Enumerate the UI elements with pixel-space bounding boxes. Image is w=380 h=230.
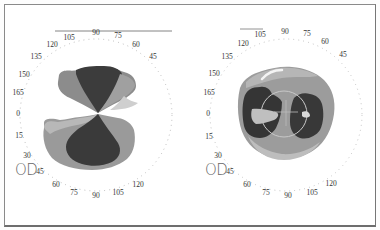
tick-label: 135 xyxy=(30,53,41,61)
tick-label: 105 xyxy=(306,189,317,197)
tick-label: 15 xyxy=(205,133,213,141)
tick-label: 45 xyxy=(36,168,44,176)
tick-label: 90 xyxy=(281,28,289,36)
tick-label: 60 xyxy=(321,38,329,46)
tick-label: 45 xyxy=(226,168,234,176)
tick-label: 90 xyxy=(92,192,100,200)
tick-label: 60 xyxy=(243,181,251,189)
tick-label: 120 xyxy=(325,180,336,188)
tick-label: 135 xyxy=(221,53,232,61)
tick-label: 0 xyxy=(16,110,20,118)
tick-label: 30 xyxy=(23,152,31,160)
tick-label: 30 xyxy=(214,152,222,160)
tick-label: 150 xyxy=(208,70,219,78)
tick-label: 105 xyxy=(63,34,74,42)
tick-label: 15 xyxy=(15,132,23,140)
tick-label: 105 xyxy=(112,189,123,197)
tick-label: 120 xyxy=(132,181,143,189)
tick-label: 0 xyxy=(206,110,210,118)
eye-label-od: OD xyxy=(205,163,227,178)
tick-label: 75 xyxy=(114,32,122,40)
tick-label: 75 xyxy=(262,189,270,197)
tick-label: 75 xyxy=(303,30,311,38)
tick-label: 150 xyxy=(18,71,29,79)
tick-label: 120 xyxy=(46,41,57,49)
topography-map-right: 105 90 75 60 45 120 135 150 165 0 15 30 … xyxy=(190,0,380,230)
tick-label: 120 xyxy=(237,40,248,48)
tick-label: 165 xyxy=(12,89,23,97)
tick-label: 45 xyxy=(149,53,157,61)
tick-label: 60 xyxy=(52,181,60,189)
tick-label: 45 xyxy=(339,51,347,59)
tick-label: 90 xyxy=(92,29,100,37)
tick-label: 165 xyxy=(203,89,214,97)
tick-label: 75 xyxy=(70,189,78,197)
eye-label-od: OD xyxy=(15,163,37,178)
tick-label: 90 xyxy=(284,192,292,200)
topography-map-left: 105 90 75 60 45 120 135 150 165 0 15 30 … xyxy=(0,0,190,230)
tick-label: 60 xyxy=(132,41,140,49)
tick-label: 105 xyxy=(254,31,265,39)
